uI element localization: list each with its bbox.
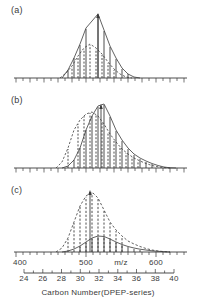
mz-tick-label-400: 400 <box>13 258 27 267</box>
mz-axis-title: m/z <box>114 258 128 267</box>
panel-b-dashed-sticks <box>68 113 138 168</box>
mz-axis-ticks <box>16 252 184 257</box>
panel-c-dashed-envelope <box>56 192 170 252</box>
carbon-axis-ticks <box>24 269 174 273</box>
mz-tick-label-600: 600 <box>149 258 163 267</box>
carbon-tick-label-24: 24 <box>19 274 28 283</box>
carbon-tick-label-30: 30 <box>76 274 85 283</box>
mz-tick-label-500: 500 <box>79 258 93 267</box>
panel-c-dashed-sticks <box>68 193 122 252</box>
carbon-tick-label-36: 36 <box>132 274 141 283</box>
panel-b-ticks <box>16 168 184 173</box>
panel-a <box>14 13 187 83</box>
carbon-tick-label-38: 38 <box>151 274 160 283</box>
carbon-tick-label-40: 40 <box>169 274 178 283</box>
panel-b-dashed-envelope <box>56 112 170 168</box>
carbon-axis-title: Carbon Number(DPEP-series) <box>41 288 154 297</box>
panel-b-solid-envelope <box>62 104 176 168</box>
panel-b-label: (b) <box>11 95 23 105</box>
panel-c <box>14 190 187 257</box>
figure-canvas <box>0 0 197 300</box>
carbon-number-axis <box>24 269 174 273</box>
carbon-tick-label-32: 32 <box>94 274 103 283</box>
carbon-tick-label-34: 34 <box>113 274 122 283</box>
panel-a-dashed-sticks <box>72 45 114 78</box>
panel-c-label: (c) <box>11 185 22 195</box>
panel-a-ticks <box>16 78 184 83</box>
carbon-tick-label-26: 26 <box>38 274 47 283</box>
panel-a-label: (a) <box>11 5 23 15</box>
panel-b <box>14 104 187 173</box>
carbon-tick-label-28: 28 <box>57 274 66 283</box>
